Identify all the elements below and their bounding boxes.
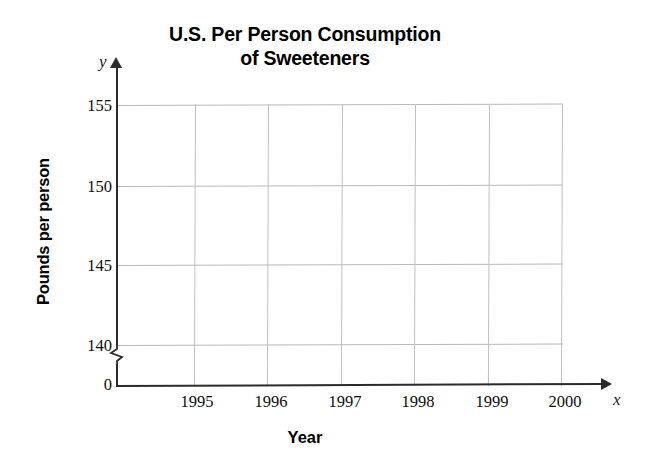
gridline-horizontal-145 [117,264,563,266]
y-tick-145: 145 [66,256,112,276]
x-axis-title: Year [160,428,450,447]
x-axis-symbol: x [613,390,621,410]
gridline-horizontal-155 [117,104,563,106]
chart-title-line-2: of Sweeteners [120,46,490,70]
y-axis-tick-labels: 155 150 145 140 0 [60,0,112,465]
y-tick-150: 150 [66,177,112,197]
gridline-horizontal-150 [117,185,563,187]
x-tick-1998: 1998 [383,392,453,412]
chart-title-line-1: U.S. Per Person Consumption [120,22,490,46]
y-tick-155: 155 [66,96,112,116]
y-axis-line-below-break [116,364,118,386]
gridline-horizontal-140 [117,344,563,346]
y-axis-title: Pounds per person [34,127,53,337]
plot-area [117,104,563,386]
x-axis-arrow-icon [601,378,612,390]
x-tick-1995: 1995 [162,392,232,412]
x-tick-2000: 2000 [530,392,600,412]
x-tick-1996: 1996 [236,392,306,412]
x-tick-1997: 1997 [310,392,380,412]
chart-title: U.S. Per Person Consumption of Sweetener… [120,22,490,70]
gridline-vertical-1995 [194,104,196,386]
y-tick-140: 140 [66,336,112,356]
y-tick-origin: 0 [66,375,112,395]
y-axis-line [116,66,118,345]
x-tick-1999: 1999 [457,392,527,412]
